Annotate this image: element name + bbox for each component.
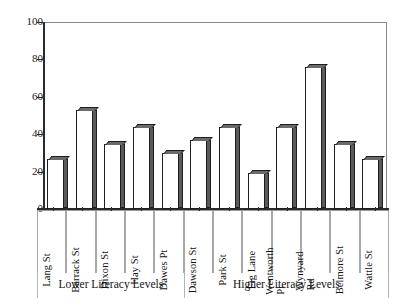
bar-shadow-side [150, 127, 154, 208]
bar-shadow-top [191, 137, 212, 141]
category-label-cell: Wattle St [360, 211, 389, 273]
bar-shadow-top [105, 141, 126, 145]
top-blank-strip [0, 0, 402, 12]
bar-shadow-top [48, 156, 69, 160]
category-label-cell: Hay St [125, 211, 154, 273]
category-label-cell: Dawson St [184, 211, 213, 273]
bar-shadow-side [121, 144, 125, 208]
x-axis-tick-mark [111, 207, 112, 211]
bar-shadow-top [134, 124, 155, 128]
bar-shadow-top [277, 124, 298, 128]
category-label-cell: Lang St [37, 211, 66, 273]
y-axis-tick-mark [37, 22, 43, 23]
bar-chart: 020406080100 Lang StBarrack StDixon StHa… [0, 0, 402, 307]
category-label-cell: Dawes Pt [154, 211, 183, 273]
category-label-cell: Dixon St [96, 211, 125, 273]
group-label-row: Lower Literacy LevelsHigher Literacy Lev… [37, 272, 389, 298]
bar [334, 144, 351, 209]
category-label-cell: Barrack St [66, 211, 95, 273]
bar-shadow-top [220, 124, 241, 128]
category-label-cell: WynyardRd [301, 211, 330, 273]
x-axis-tick-mark [170, 207, 171, 211]
bar [276, 127, 293, 209]
category-label-cell: Park St [213, 211, 242, 273]
bar-shadow-top [363, 156, 384, 160]
x-axis-tick-mark [287, 207, 288, 211]
bar-shadow-side [293, 127, 297, 208]
group-label: Higher Literacy Levels [184, 272, 389, 298]
x-axis-tick-mark [229, 207, 230, 211]
bar [248, 173, 265, 209]
group-label: Lower Literacy Levels [37, 272, 184, 298]
bar-shadow-side [322, 67, 326, 208]
bar [190, 140, 207, 209]
bar [133, 127, 150, 209]
bar-shadow-side [64, 159, 68, 208]
bar-shadow-side [93, 110, 97, 208]
bar [162, 153, 179, 209]
bar [305, 67, 322, 209]
bar-shadow-top [306, 64, 327, 68]
y-axis-tick-mark [37, 134, 43, 135]
y-axis-tick-mark [37, 59, 43, 60]
x-axis-tick-mark [346, 207, 347, 211]
bar-shadow-side [379, 159, 383, 208]
bar [47, 159, 64, 209]
x-axis-tick-mark [258, 207, 259, 211]
x-axis-tick-mark [141, 207, 142, 211]
bar-shadow-side [207, 140, 211, 208]
bar-shadow-top [249, 170, 270, 174]
category-label-cell: Belmore St [330, 211, 359, 273]
y-axis-tick-mark [37, 172, 43, 173]
x-axis-tick-mark [317, 207, 318, 211]
x-axis-tick-mark [82, 207, 83, 211]
bars-layer [43, 22, 387, 209]
x-axis-tick-mark [199, 207, 200, 211]
y-axis-tick-mark [37, 97, 43, 98]
bar-shadow-side [351, 144, 355, 208]
bar-shadow-top [163, 150, 184, 154]
bar [219, 127, 236, 209]
bar-shadow-top [335, 141, 356, 145]
bar [104, 144, 121, 209]
bar-shadow-side [265, 173, 269, 208]
category-label-row: Lang StBarrack StDixon StHay StDawes PtD… [37, 210, 389, 272]
bar-shadow-side [179, 153, 183, 208]
y-axis-tick-mark [37, 209, 43, 210]
x-axis-tick-mark [375, 207, 376, 211]
bar-shadow-top [77, 107, 98, 111]
bar [76, 110, 93, 209]
x-axis-tick-mark [53, 207, 54, 211]
bar [362, 159, 379, 209]
bar-shadow-side [236, 127, 240, 208]
